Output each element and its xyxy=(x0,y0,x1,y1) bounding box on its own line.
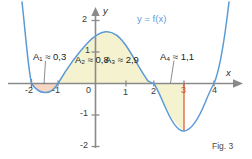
x-axis-label: x xyxy=(226,68,231,78)
y-tick-label--1: -1 xyxy=(80,109,88,118)
y-tick-label--2: -2 xyxy=(80,141,88,150)
area-label-a1: A₁ ≈ 0,3 xyxy=(33,52,66,62)
x-tick-label--1: -1 xyxy=(52,86,60,95)
y-tick-label-2: 2 xyxy=(82,15,87,24)
x-axis-arrow xyxy=(233,79,243,88)
x-tick-label-3: 3 xyxy=(181,86,186,95)
area-label-a3: A₃ ≈ 2,9 xyxy=(105,55,139,65)
leader-line-a1 xyxy=(44,61,46,84)
function-plot xyxy=(0,0,252,159)
x-tick-label-1: 1 xyxy=(123,88,128,97)
area-label-a2: A₂ ≈ 0,8 xyxy=(75,55,109,65)
x-tick-label--2: -2 xyxy=(25,86,33,95)
leader-line-a4 xyxy=(171,61,175,84)
figure-caption: Fig. 3 xyxy=(212,142,233,151)
origin-label: 0 xyxy=(86,86,91,95)
function-label: y = f(x) xyxy=(137,14,166,24)
figure-container: y = f(x) x y 0 2 1 -1 -2 -2 -1 1 2 3 4 A… xyxy=(0,0,252,159)
x-tick-label-2: 2 xyxy=(151,87,156,96)
y-axis-label: y xyxy=(103,6,108,16)
y-axis-arrow xyxy=(91,7,99,16)
area-label-a4: A₄ ≈ 1,1 xyxy=(160,52,194,62)
x-tick-label-4: 4 xyxy=(212,86,217,95)
